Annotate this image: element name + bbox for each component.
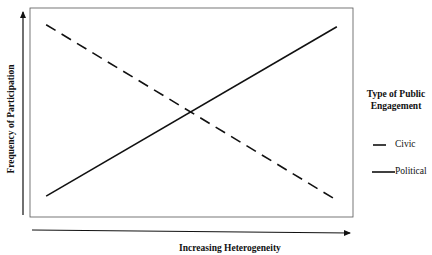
legend-label-civic: Civic <box>395 139 416 149</box>
series-line-civic <box>46 25 337 201</box>
legend-title: Type of Public Engagement <box>360 88 432 112</box>
diagram-canvas <box>0 0 432 255</box>
x-axis-arrow <box>32 230 350 233</box>
legend-title-line1: Type of Public <box>360 88 432 100</box>
legend-title-line2: Engagement <box>360 100 432 112</box>
legend-label-political: Political <box>395 166 427 176</box>
series-line-political <box>46 27 337 196</box>
x-axis-label: Increasing Heterogeneity <box>130 243 330 253</box>
y-axis-label: Frequency of Participation <box>6 54 16 184</box>
